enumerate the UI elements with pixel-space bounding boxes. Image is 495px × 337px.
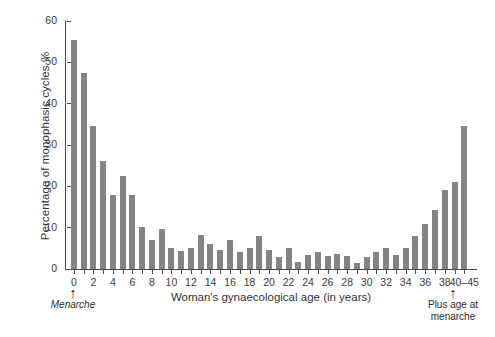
bar (286, 248, 292, 269)
y-tick-label: 20 (17, 179, 57, 191)
bar (149, 240, 155, 269)
bar (207, 244, 213, 269)
bar (354, 263, 360, 269)
x-tick-mark (289, 270, 290, 274)
x-tick-mark (171, 270, 172, 274)
bar (266, 250, 272, 269)
menarche-arrow-icon: ↑ (38, 286, 108, 299)
bar (344, 256, 350, 269)
x-tick-mark (396, 270, 397, 274)
plus-age-arrow-icon: ↑ (411, 286, 495, 299)
plot-area: 0102030405060 02468101214161820222426283… (66, 21, 476, 269)
x-tick-label: 6 (129, 276, 135, 288)
x-tick-mark (308, 270, 309, 274)
x-tick-mark (230, 270, 231, 274)
x-tick-label: 22 (283, 276, 295, 288)
bar (168, 248, 174, 269)
bar (403, 248, 409, 269)
bar (178, 251, 184, 269)
bar (129, 195, 135, 269)
x-tick-label: 26 (322, 276, 334, 288)
x-tick-label: 24 (302, 276, 314, 288)
bar (422, 224, 428, 269)
bar (432, 210, 438, 269)
x-tick-mark (298, 270, 299, 274)
x-tick-mark (123, 270, 124, 274)
y-tick-label: 50 (17, 55, 57, 67)
bar (412, 236, 418, 269)
x-tick-mark (103, 270, 104, 274)
x-tick-mark (425, 270, 426, 274)
x-tick-label: 28 (341, 276, 353, 288)
bar (188, 248, 194, 269)
plus-age-annotation-line2: menarche (431, 311, 475, 322)
bar (159, 229, 165, 269)
x-tick-label: 34 (400, 276, 412, 288)
bar (364, 257, 370, 269)
x-tick-label: 12 (185, 276, 197, 288)
x-tick-mark (357, 270, 358, 274)
x-tick-mark (152, 270, 153, 274)
menarche-annotation: ↑ Menarche (38, 286, 108, 311)
bar (442, 190, 448, 269)
bar (315, 252, 321, 269)
bar (461, 126, 467, 269)
x-tick-mark (142, 270, 143, 274)
x-tick-mark (84, 270, 85, 274)
bar (393, 255, 399, 269)
bar (81, 73, 87, 269)
x-tick-mark (328, 270, 329, 274)
bar (227, 240, 233, 269)
bar (325, 256, 331, 269)
x-tick-mark (376, 270, 377, 274)
x-tick-label: 8 (149, 276, 155, 288)
x-tick-mark (445, 270, 446, 274)
x-tick-mark (455, 270, 456, 274)
x-tick-mark (259, 270, 260, 274)
x-tick-label: 4 (110, 276, 116, 288)
bar (305, 255, 311, 269)
x-tick-mark (406, 270, 407, 274)
x-tick-mark (415, 270, 416, 274)
bar (237, 252, 243, 269)
bar (452, 182, 458, 269)
x-tick-mark (269, 270, 270, 274)
x-tick-mark (435, 270, 436, 274)
menarche-annotation-label: Menarche (51, 299, 95, 310)
x-tick-label: 32 (380, 276, 392, 288)
bar (120, 176, 126, 269)
plus-age-annotation-line1: Plus age at (428, 299, 478, 310)
bar (247, 248, 253, 269)
x-tick-mark (240, 270, 241, 274)
chart-figure: Percentage of monophasic cycles % 010203… (0, 0, 495, 337)
bar (90, 126, 96, 269)
x-tick-mark (337, 270, 338, 274)
x-tick-mark (318, 270, 319, 274)
bar (334, 254, 340, 269)
bar (139, 227, 145, 269)
x-tick-mark (279, 270, 280, 274)
bar (217, 250, 223, 269)
y-tick-label: 60 (17, 14, 57, 26)
x-tick-mark (113, 270, 114, 274)
x-tick-label: 10 (166, 276, 178, 288)
x-tick-mark (386, 270, 387, 274)
bar (198, 235, 204, 269)
bar (100, 161, 106, 269)
x-tick-label: 30 (361, 276, 373, 288)
x-tick-mark (464, 270, 465, 274)
y-tick-label: 10 (17, 221, 57, 233)
x-tick-label: 14 (205, 276, 217, 288)
y-tick-label: 0 (17, 262, 57, 274)
x-tick-mark (191, 270, 192, 274)
bar (110, 195, 116, 269)
bar (383, 248, 389, 269)
x-tick-label: 20 (263, 276, 275, 288)
x-tick-mark (132, 270, 133, 274)
y-axis-line (65, 21, 66, 270)
x-tick-mark (201, 270, 202, 274)
x-tick-mark (210, 270, 211, 274)
x-tick-mark (220, 270, 221, 274)
x-tick-mark (74, 270, 75, 274)
y-tick-mark (67, 21, 71, 22)
